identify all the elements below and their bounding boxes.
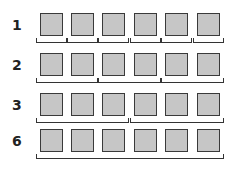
- square: [71, 93, 94, 116]
- row-2: 2: [0, 53, 235, 83]
- group-bracket: [130, 118, 224, 123]
- square: [102, 129, 125, 152]
- square: [40, 129, 63, 152]
- group-bracket: [130, 38, 161, 43]
- square: [165, 129, 188, 152]
- square: [102, 93, 125, 116]
- group-bracket: [98, 38, 129, 43]
- square: [165, 13, 188, 36]
- square: [197, 13, 220, 36]
- row-label: 6: [12, 133, 22, 149]
- square: [102, 13, 125, 36]
- group-bracket: [193, 38, 224, 43]
- row-6: 6: [0, 129, 235, 159]
- square: [134, 129, 157, 152]
- square: [197, 93, 220, 116]
- row-label: 3: [12, 97, 22, 113]
- square: [102, 53, 125, 76]
- square: [165, 53, 188, 76]
- square: [40, 93, 63, 116]
- square: [165, 93, 188, 116]
- row-label: 2: [12, 57, 22, 73]
- group-bracket: [36, 78, 98, 83]
- row-label: 1: [12, 17, 22, 33]
- square: [134, 13, 157, 36]
- group-bracket: [36, 118, 129, 123]
- group-bracket: [67, 38, 98, 43]
- group-bracket: [161, 78, 224, 83]
- square: [71, 53, 94, 76]
- row-3: 3: [0, 93, 235, 123]
- square: [197, 53, 220, 76]
- square: [71, 13, 94, 36]
- square: [134, 53, 157, 76]
- group-bracket: [36, 154, 224, 159]
- group-bracket: [36, 38, 67, 43]
- square: [40, 53, 63, 76]
- square: [134, 93, 157, 116]
- row-1: 1: [0, 13, 235, 43]
- square: [71, 129, 94, 152]
- square: [40, 13, 63, 36]
- group-bracket: [98, 78, 161, 83]
- square: [197, 129, 220, 152]
- group-bracket: [161, 38, 192, 43]
